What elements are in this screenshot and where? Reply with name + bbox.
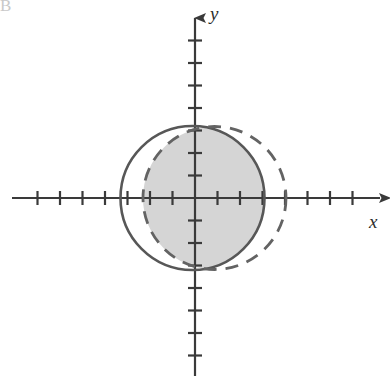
y-axis-label: y: [208, 3, 219, 24]
axes-group: [12, 18, 380, 376]
coordinate-plane-plot: x y: [0, 0, 390, 388]
figure-root: B x y: [0, 0, 390, 388]
x-axis-label: x: [368, 211, 378, 232]
figure-corner-label: B: [0, 0, 11, 16]
